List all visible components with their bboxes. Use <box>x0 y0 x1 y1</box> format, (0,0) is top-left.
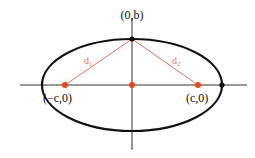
d2-line <box>132 39 198 85</box>
d2-label: d2 <box>172 55 181 68</box>
right-focus-point <box>195 82 201 88</box>
d1-label: d1 <box>84 55 93 68</box>
right-focus-label: (c,0) <box>186 91 208 105</box>
ellipse-diagram: (0,b) (−c,0) (c,0) d1 d2 <box>0 0 255 158</box>
right-vertex-point <box>219 82 224 87</box>
center-point <box>129 82 135 88</box>
d1-line <box>65 39 132 85</box>
top-vertex-label: (0,b) <box>121 8 144 22</box>
left-focus-label: (−c,0) <box>43 91 72 105</box>
left-focus-point <box>62 82 68 88</box>
top-vertex-point <box>129 36 134 41</box>
